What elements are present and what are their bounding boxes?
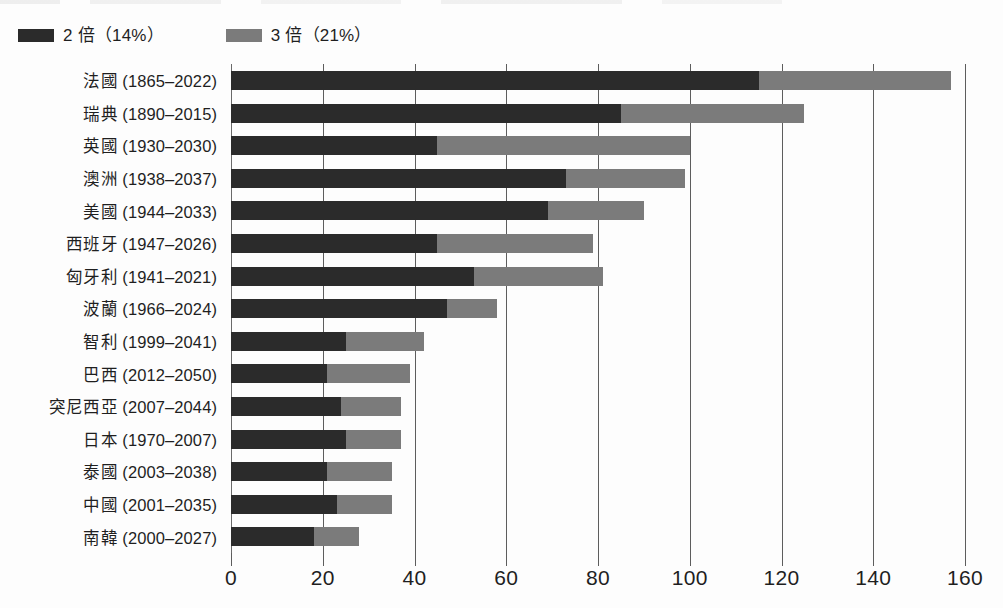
bar-segment-2x (231, 332, 346, 351)
category-label: 英國 (1930–2030) (0, 129, 224, 162)
x-tick-label-0: 0 (225, 566, 237, 590)
x-tick-40 (415, 553, 416, 566)
bar-segment-2x (231, 234, 437, 253)
bar-row (231, 162, 965, 195)
bar-row (231, 194, 965, 227)
x-tick-label-60: 60 (494, 566, 518, 590)
x-tick-120 (782, 553, 783, 566)
category-label: 匈牙利 (1941–2021) (0, 260, 224, 293)
bar-segment-2x (231, 462, 327, 481)
x-tick-label-20: 20 (311, 566, 335, 590)
bar-segment-2x (231, 430, 346, 449)
bar-segment-3x (346, 332, 424, 351)
category-axis-labels: 法國 (1865–2022)瑞典 (1890–2015)英國 (1930–203… (0, 64, 224, 553)
bar-segment-2x (231, 299, 447, 318)
bar-row (231, 64, 965, 97)
x-tick-100 (690, 553, 691, 566)
bar-segment-2x (231, 527, 314, 546)
bar-segment-3x (474, 267, 602, 286)
bar-row (231, 292, 965, 325)
bar-segment-3x (759, 71, 952, 90)
bar-segment-3x (437, 136, 689, 155)
x-tick-label-80: 80 (586, 566, 610, 590)
bar-segment-2x (231, 201, 548, 220)
category-label: 智利 (1999–2041) (0, 325, 224, 358)
chart-legend: 2 倍（14%） 3 倍（21%） (18, 24, 372, 46)
x-tick-label-100: 100 (672, 566, 708, 590)
bar-segment-2x (231, 71, 759, 90)
category-label: 西班牙 (1947–2026) (0, 227, 224, 260)
bar-row (231, 129, 965, 162)
x-tick-label-140: 140 (855, 566, 891, 590)
bar-segment-3x (437, 234, 593, 253)
bar-segment-3x (341, 397, 401, 416)
category-label: 美國 (1944–2033) (0, 194, 224, 227)
bar-row (231, 260, 965, 293)
x-tick-0 (231, 553, 232, 566)
legend-item-2x: 2 倍（14%） (18, 27, 164, 44)
x-axis-ticks (231, 553, 965, 567)
legend-item-3x: 3 倍（21%） (226, 27, 372, 44)
category-label: 中國 (2001–2035) (0, 488, 224, 521)
bar-segment-2x (231, 169, 566, 188)
bar-segment-3x (346, 430, 401, 449)
legend-label-3x: 3 倍（21%） (271, 27, 372, 44)
bar-row (231, 227, 965, 260)
x-tick-label-40: 40 (403, 566, 427, 590)
category-label: 波蘭 (1966–2024) (0, 292, 224, 325)
category-label: 日本 (1970–2007) (0, 423, 224, 456)
category-label: 法國 (1865–2022) (0, 64, 224, 97)
bar-row (231, 423, 965, 456)
category-label: 突尼西亞 (2007–2044) (0, 390, 224, 423)
x-tick-160 (965, 553, 966, 566)
category-label: 澳洲 (1938–2037) (0, 162, 224, 195)
legend-label-2x: 2 倍（14%） (63, 27, 164, 44)
gridline-160 (965, 64, 966, 553)
x-axis-tick-labels: 020406080100120140160 (0, 566, 1003, 598)
bar-row (231, 97, 965, 130)
bar-segment-2x (231, 495, 337, 514)
x-tick-80 (598, 553, 599, 566)
legend-swatch-3x (226, 29, 262, 42)
bar-segment-2x (231, 364, 327, 383)
x-tick-label-160: 160 (947, 566, 983, 590)
bar-segment-2x (231, 267, 474, 286)
stacked-bar-chart: 2 倍（14%） 3 倍（21%） 法國 (1865–2022)瑞典 (1890… (0, 0, 1003, 608)
bar-row (231, 325, 965, 358)
plot-area (231, 64, 965, 553)
x-tick-140 (873, 553, 874, 566)
category-label: 瑞典 (1890–2015) (0, 97, 224, 130)
bar-row (231, 455, 965, 488)
x-tick-60 (506, 553, 507, 566)
bar-segment-2x (231, 136, 437, 155)
bar-segment-3x (621, 104, 805, 123)
bar-row (231, 488, 965, 521)
bar-row (231, 520, 965, 553)
bar-row (231, 357, 965, 390)
legend-swatch-2x (18, 29, 54, 42)
category-label: 泰國 (2003–2038) (0, 455, 224, 488)
x-tick-label-120: 120 (764, 566, 800, 590)
x-tick-20 (323, 553, 324, 566)
bar-segment-3x (314, 527, 360, 546)
category-label: 巴西 (2012–2050) (0, 357, 224, 390)
bar-segment-2x (231, 104, 621, 123)
bar-segment-3x (566, 169, 685, 188)
category-label: 南韓 (2000–2027) (0, 520, 224, 553)
bar-segment-3x (327, 462, 391, 481)
bar-segment-3x (548, 201, 644, 220)
bar-segment-2x (231, 397, 341, 416)
bar-segment-3x (447, 299, 497, 318)
bar-rows (231, 64, 965, 553)
bar-segment-3x (327, 364, 410, 383)
bar-row (231, 390, 965, 423)
bar-segment-3x (337, 495, 392, 514)
